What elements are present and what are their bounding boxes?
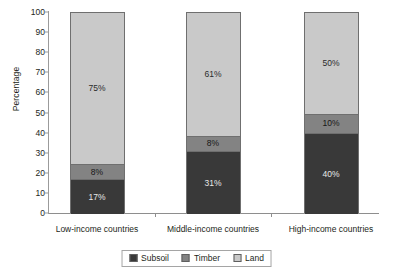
y-tick-mark [45, 112, 49, 113]
legend-label: Timber [194, 253, 220, 263]
plot-area: 0102030405060708090100 75%8%17%61%8%31%5… [49, 12, 379, 213]
bar-segment-value-label: 75% [88, 84, 105, 93]
y-tick-mark [45, 32, 49, 33]
y-tick-label: 20 [36, 168, 45, 178]
y-tick-label: 0 [40, 208, 45, 218]
chart-legend: SubsoilTimberLand [121, 250, 272, 267]
y-tick-mark [45, 12, 49, 13]
legend-swatch-icon [233, 254, 241, 262]
y-tick-mark [45, 213, 49, 214]
bar-segment-value-label: 8% [91, 168, 103, 177]
y-tick-label: 70 [36, 67, 45, 77]
y-tick-label: 80 [36, 47, 45, 57]
legend-swatch-icon [129, 254, 137, 262]
bar-segment-subsoil[interactable]: 17% [71, 180, 124, 214]
y-axis-label: Percentage [11, 49, 21, 129]
bar-segment-value-label: 8% [207, 139, 219, 148]
y-tick-mark [45, 192, 49, 193]
bar-segment-land[interactable]: 75% [71, 13, 124, 164]
legend-label: Subsoil [141, 253, 169, 263]
x-tick-mark [155, 213, 156, 217]
bar-segment-timber[interactable]: 8% [71, 164, 124, 180]
bar-segment-value-label: 17% [88, 193, 105, 202]
y-tick-mark [45, 132, 49, 133]
legend-item-land[interactable]: Land [233, 253, 264, 263]
bar-stack[interactable]: 50%10%40% [304, 12, 359, 213]
bar-segment-timber[interactable]: 10% [305, 114, 358, 134]
legend-swatch-icon [182, 254, 190, 262]
legend-item-subsoil[interactable]: Subsoil [129, 253, 169, 263]
y-tick-mark [45, 172, 49, 173]
y-tick-label: 40 [36, 128, 45, 138]
bar-segment-value-label: 40% [322, 170, 339, 179]
y-tick-mark [45, 52, 49, 53]
bar-stack[interactable]: 61%8%31% [186, 12, 241, 213]
legend-label: Land [245, 253, 264, 263]
y-tick-mark [45, 152, 49, 153]
bar-segment-subsoil[interactable]: 31% [187, 152, 240, 214]
y-tick-mark [45, 72, 49, 73]
bar-stack[interactable]: 75%8%17% [70, 12, 125, 213]
stacked-bar-chart: Percentage 0102030405060708090100 75%8%1… [0, 0, 393, 275]
bar-segment-timber[interactable]: 8% [187, 136, 240, 152]
y-tick-label: 50 [36, 108, 45, 118]
bar-segment-value-label: 50% [322, 59, 339, 68]
bar-segment-value-label: 10% [322, 119, 339, 128]
bar-segment-land[interactable]: 61% [187, 13, 240, 136]
y-tick-label: 60 [36, 87, 45, 97]
bar-segment-value-label: 31% [204, 179, 221, 188]
x-category-label: High-income countries [289, 224, 374, 234]
x-category-label: Low-income countries [56, 224, 139, 234]
y-tick-label: 10 [36, 188, 45, 198]
bar-segment-subsoil[interactable]: 40% [305, 134, 358, 214]
x-tick-mark [271, 213, 272, 217]
y-tick-label: 30 [36, 148, 45, 158]
legend-item-timber[interactable]: Timber [182, 253, 220, 263]
bar-segment-value-label: 61% [204, 70, 221, 79]
x-category-label: Middle-income countries [167, 224, 259, 234]
y-tick-mark [45, 92, 49, 93]
bar-segment-land[interactable]: 50% [305, 13, 358, 114]
y-tick-label: 90 [36, 27, 45, 37]
y-tick-label: 100 [31, 7, 45, 17]
